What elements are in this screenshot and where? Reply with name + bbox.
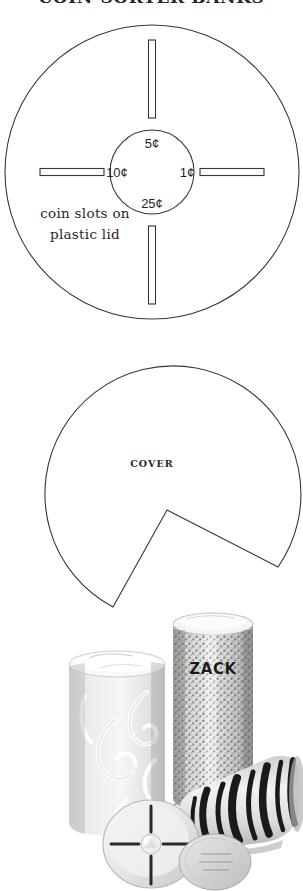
coin-label-dime: 10¢ xyxy=(106,165,128,180)
coin-slot-left xyxy=(40,169,104,176)
cover-template-diagram: COVER xyxy=(0,352,303,627)
lid-caption-line-2: plastic lid xyxy=(50,226,120,242)
finished-coin-banks-photo: ZACK xyxy=(55,600,303,891)
cover-outline xyxy=(45,366,301,607)
coin-label-quarter: 25¢ xyxy=(141,196,163,211)
coin-slot-bottom xyxy=(149,226,156,304)
coin-slot-lid-diagram: 5¢ 10¢ 1¢ 25¢ coin slots on plastic lid xyxy=(0,22,303,334)
coin-slot-right xyxy=(200,169,264,176)
coin-slot-top xyxy=(149,40,156,118)
bank-name-label: ZACK xyxy=(189,660,237,678)
coin-label-nickel: 5¢ xyxy=(145,136,159,151)
coin xyxy=(179,834,251,890)
cover-label: COVER xyxy=(130,458,174,469)
lid-caption-line-1: coin slots on xyxy=(40,205,130,221)
coin-label-penny: 1¢ xyxy=(180,165,194,180)
page-title: COIN-SORTER BANKS xyxy=(0,0,303,7)
